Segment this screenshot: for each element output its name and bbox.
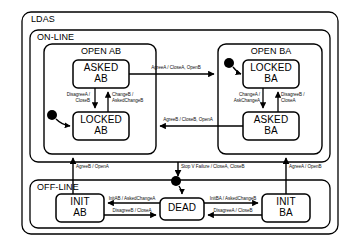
composite-label-open-ba: OPEN BA <box>243 47 299 56</box>
transition-label-initba-to-openba: AgreeA / OpenB <box>289 165 345 170</box>
transition-label-askedba-to-lockedba-line2: CloseA <box>281 99 327 104</box>
region-label-online: ON-LINE <box>37 33 74 42</box>
transition-label-askedba-to-openab: AgreeB / CloseB, OpenA <box>152 118 224 123</box>
transition-label-initab-to-dead: DisagreeB / CloseA <box>104 209 160 214</box>
transition-label-initab-to-openab: AgreeB / OpenA <box>76 165 136 170</box>
state-dead-line1: DEAD <box>160 203 204 214</box>
state-asked-ba-line2: BA <box>243 126 299 137</box>
state-locked-ba-line2: BA <box>243 74 299 85</box>
region-label-offline: OFF-LINE <box>37 183 79 192</box>
state-init-ab-line2: AB <box>56 208 104 219</box>
state-init-ab-line1: INIT <box>56 197 104 208</box>
state-asked-ba-line1: ASKED <box>243 115 299 126</box>
composite-label-open-ab: OPEN AB <box>74 47 128 56</box>
state-asked-ab-line1: ASKED <box>73 63 129 74</box>
state-locked-ab-line1: LOCKED <box>73 115 129 126</box>
initial-marker-locked-ab <box>47 110 57 120</box>
state-locked-ab-line2: AB <box>73 126 129 137</box>
state-asked-ab-line2: AB <box>73 74 129 85</box>
transition-label-dead-to-initab: InitAB / AskedChangeA <box>104 197 160 202</box>
transition-label-dead-to-initba: InitBA / AskedChangeB <box>204 197 262 202</box>
transition-label-online-to-dead: Stop V Failure / CloseA, CloseB <box>181 165 271 170</box>
transition-label-askedab-to-lockedab-line2: CloseB <box>42 99 90 104</box>
state-init-ba-line2: BA <box>262 208 310 219</box>
statechart-diagram: LDAS ON-LINE OFF-LINE OPEN AB OPEN BA AS… <box>0 0 357 249</box>
transition-label-lockedab-to-askedab-line2: AskedChangeB <box>112 99 160 104</box>
region-label-ldas: LDAS <box>31 15 55 24</box>
transition-label-initba-to-dead: DisagreeA / CloseB <box>204 209 262 214</box>
transition-label-askedab-to-openba: AgreeA / CloseA, OpenB <box>141 66 211 71</box>
state-init-ba-line1: INIT <box>262 197 310 208</box>
state-locked-ba-line1: LOCKED <box>243 63 299 74</box>
initial-marker-locked-ba <box>224 58 234 68</box>
transition-label-lockedba-to-askedba-line2: AskChangeA <box>214 99 260 104</box>
initial-marker-dead <box>171 176 181 186</box>
